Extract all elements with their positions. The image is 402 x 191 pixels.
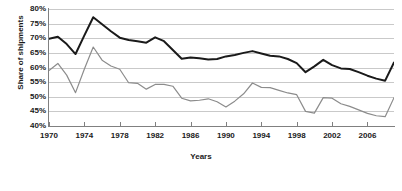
line-chart: Share of shipments 80%75%70%65%60%55%50%…: [0, 0, 402, 191]
y-axis-tick-labels: 80%75%70%65%60%55%50%45%40%: [14, 0, 46, 135]
y-axis-tick-label: 65%: [14, 49, 46, 57]
y-axis-tick-label: 45%: [14, 107, 46, 115]
x-axis-tick-labels: 1970197419781982198619901994199820022006: [0, 131, 402, 145]
x-axis-title: Years: [0, 152, 402, 161]
series-layer: [49, 17, 394, 116]
x-axis-tick-label: 1974: [64, 131, 104, 141]
x-axis-tickmarks: [50, 122, 368, 126]
y-axis-tick-label: 40%: [14, 122, 46, 130]
y-axis-tick-label: 55%: [14, 78, 46, 86]
y-axis-tick-label: 70%: [14, 34, 46, 42]
series-line-upper-dark-series: [49, 17, 394, 80]
x-axis-tick-label: 1970: [29, 131, 69, 141]
x-axis-tick-label: 1982: [135, 131, 175, 141]
x-axis-tick-label: 2002: [312, 131, 352, 141]
y-axis-tick-label: 60%: [14, 64, 46, 72]
x-axis-tick-label: 1994: [241, 131, 281, 141]
y-axis-tick-label: 80%: [14, 5, 46, 13]
y-axis-tick-label: 50%: [14, 93, 46, 101]
plot-area: [49, 9, 394, 126]
x-axis-tick-label: 1978: [100, 131, 140, 141]
y-axis-tick-label: 75%: [14, 20, 46, 28]
x-axis-line: [48, 126, 395, 127]
x-axis-tick-label: 1986: [171, 131, 211, 141]
x-axis-tick-label: 2006: [347, 131, 387, 141]
x-axis-tick-label: 1990: [206, 131, 246, 141]
x-axis-tick-label: 1998: [277, 131, 317, 141]
